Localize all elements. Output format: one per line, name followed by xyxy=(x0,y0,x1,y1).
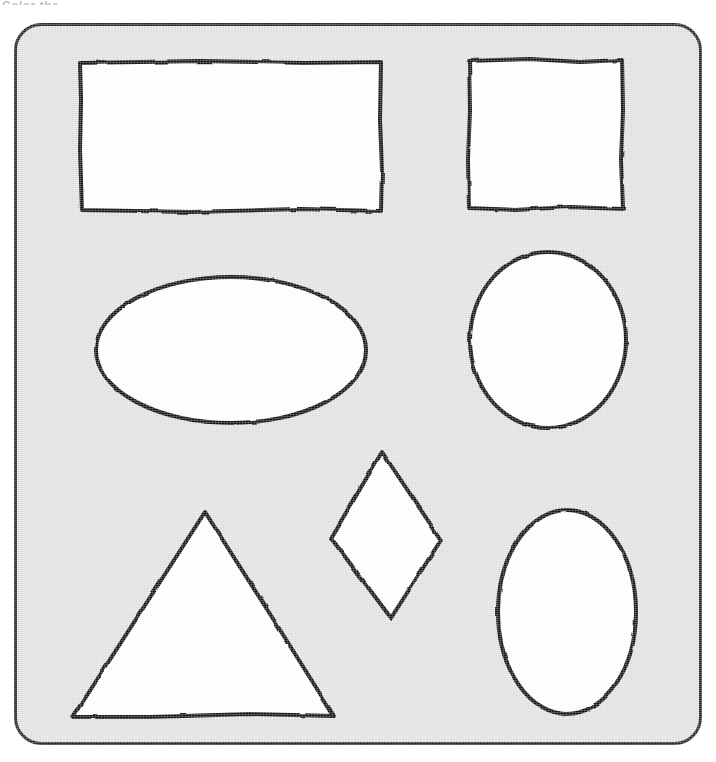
hit-diamond[interactable] xyxy=(331,452,441,618)
hit-square[interactable] xyxy=(468,60,623,210)
hit-rectangle[interactable] xyxy=(80,62,381,211)
hit-triangle[interactable] xyxy=(73,512,334,717)
hit-oval[interactable] xyxy=(96,277,366,424)
hit-vertical-oval[interactable] xyxy=(498,510,636,714)
worksheet-page: Color the xyxy=(0,0,716,762)
hit-circle[interactable] xyxy=(470,252,627,428)
